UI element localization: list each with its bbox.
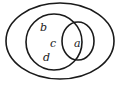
label-b: b [40, 21, 47, 34]
label-a: a [74, 37, 81, 50]
label-c: c [50, 37, 56, 50]
label-d: d [43, 51, 50, 64]
venn-diagram: b c d a [0, 0, 121, 86]
